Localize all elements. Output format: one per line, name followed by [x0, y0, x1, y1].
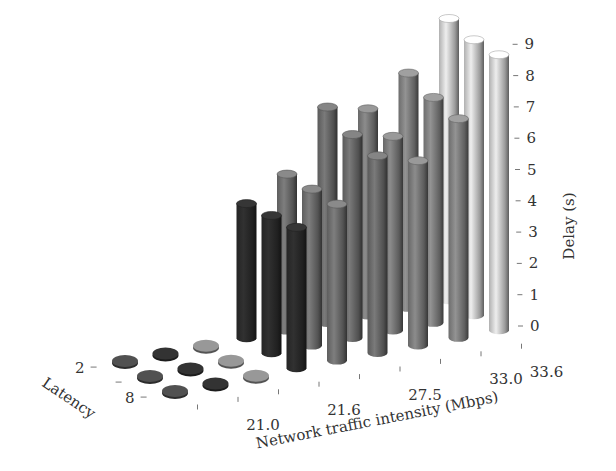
bar [178, 362, 204, 376]
delay-tick-label: 4 [528, 192, 538, 210]
bar [112, 355, 138, 369]
bar [262, 211, 282, 357]
delay-tick-label: 1 [529, 286, 539, 304]
bar [287, 223, 307, 372]
delay-tick-label: 8 [525, 67, 535, 85]
bar [218, 355, 244, 369]
delay-axis-title: Delay (s) [560, 192, 578, 259]
latency-axis-title: Latency [39, 374, 100, 423]
bar [153, 347, 179, 361]
delay-tick-label: 0 [530, 317, 540, 335]
delay-tick-label: 5 [527, 161, 537, 179]
delay-tick-label: 6 [526, 129, 536, 147]
bar [327, 200, 347, 365]
bar [203, 377, 229, 391]
bar [237, 200, 257, 343]
bar [489, 51, 509, 334]
bar [368, 152, 388, 357]
3d-bar-chart: 0123456789 21.021.627.533.033.6 28 Delay… [0, 0, 616, 471]
delay-tick-label: 2 [529, 254, 539, 272]
traffic-tick-label: 33.0 [489, 370, 522, 388]
bar [408, 157, 428, 350]
latency-tick-label: 8 [125, 389, 135, 407]
traffic-tick-label: 33.6 [530, 363, 563, 381]
bar [137, 370, 163, 384]
bar [243, 370, 269, 384]
bar [162, 385, 188, 399]
bar [449, 115, 469, 342]
delay-axis: 0123456789 [513, 35, 540, 335]
bar [193, 340, 219, 354]
bars-group [112, 15, 509, 400]
delay-tick-label: 3 [528, 223, 538, 241]
latency-tick-label: 2 [75, 359, 85, 377]
delay-tick-label: 9 [525, 35, 535, 53]
delay-tick-label: 7 [526, 98, 536, 116]
traffic-axis-title: Network traffic intensity (Mbps) [254, 388, 499, 453]
